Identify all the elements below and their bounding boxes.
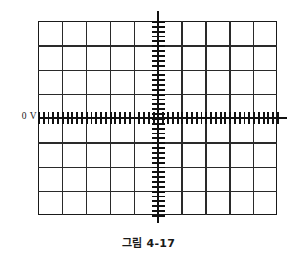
axis-tick <box>152 99 165 101</box>
axis-tick <box>152 31 165 33</box>
axis-tick <box>210 112 212 124</box>
axis-tick <box>152 210 165 212</box>
axis-tick <box>48 112 50 124</box>
axis-tick <box>248 112 250 124</box>
axis-tick <box>220 112 222 124</box>
vertical-axis-ticks <box>152 21 165 215</box>
figure-oscilloscope-graticule: 0 V 그림 4-17 <box>0 0 297 260</box>
axis-tick <box>201 112 203 124</box>
axis-tick <box>152 84 165 86</box>
axis-tick <box>43 112 45 124</box>
axis-tick <box>148 112 150 124</box>
axis-tick <box>152 147 165 149</box>
axis-tick <box>71 112 73 124</box>
axis-tick <box>167 112 169 124</box>
axis-tick <box>152 137 165 139</box>
axis-tick <box>152 50 165 52</box>
axis-tick <box>152 205 165 207</box>
axis-tick <box>191 112 193 124</box>
axis-tick <box>152 133 165 135</box>
axis-tick <box>152 191 165 193</box>
axis-tick <box>229 112 231 124</box>
axis-tick <box>119 112 121 124</box>
axis-tick <box>152 157 165 159</box>
zero-volt-label: 0 V <box>11 110 37 122</box>
axis-tick <box>143 112 145 124</box>
axis-tick <box>244 112 246 124</box>
axis-tick <box>100 112 102 124</box>
axis-tick <box>38 112 40 124</box>
axis-tick <box>152 123 165 125</box>
axis-tick <box>81 112 83 124</box>
axis-tick <box>152 162 165 164</box>
axis-tick <box>152 200 165 202</box>
axis-tick <box>152 196 165 198</box>
axis-tick <box>253 112 255 124</box>
axis-tick <box>272 112 274 124</box>
axis-tick <box>239 112 241 124</box>
axis-tick <box>152 55 165 57</box>
axis-tick <box>152 65 165 67</box>
axis-tick <box>152 171 165 173</box>
axis-tick <box>196 112 198 124</box>
axis-tick <box>110 112 112 124</box>
axis-tick <box>172 112 174 124</box>
axis-tick <box>152 128 165 130</box>
axis-tick <box>152 118 165 120</box>
axis-tick <box>152 70 165 72</box>
axis-tick <box>152 26 165 28</box>
axis-tick <box>134 112 136 124</box>
axis-tick <box>152 215 165 217</box>
axis-tick <box>152 36 165 38</box>
axis-tick <box>152 181 165 183</box>
axis-tick <box>86 112 88 124</box>
axis-tick <box>76 112 78 124</box>
axis-tick <box>258 112 260 124</box>
axis-tick <box>152 108 165 110</box>
axis-tick <box>67 112 69 124</box>
axis-tick <box>152 142 165 144</box>
axis-tick <box>95 112 97 124</box>
axis-tick <box>152 94 165 96</box>
axis-tick <box>152 167 165 169</box>
axis-tick <box>152 89 165 91</box>
axis-tick <box>105 112 107 124</box>
axis-tick <box>152 152 165 154</box>
axis-tick <box>114 112 116 124</box>
axis-tick <box>152 45 165 47</box>
axis-tick <box>152 21 165 23</box>
axis-tick <box>152 74 165 76</box>
axis-tick <box>267 112 269 124</box>
axis-tick <box>224 112 226 124</box>
axis-tick <box>205 112 207 124</box>
axis-tick <box>91 112 93 124</box>
figure-caption: 그림 4-17 <box>0 234 297 250</box>
axis-tick <box>152 176 165 178</box>
axis-tick <box>152 103 165 105</box>
axis-tick <box>177 112 179 124</box>
axis-tick <box>152 113 165 115</box>
axis-tick <box>52 112 54 124</box>
axis-tick <box>234 112 236 124</box>
axis-tick <box>263 112 265 124</box>
axis-tick <box>152 40 165 42</box>
axis-tick <box>152 79 165 81</box>
axis-tick <box>129 112 131 124</box>
axis-tick <box>186 112 188 124</box>
axis-tick <box>124 112 126 124</box>
axis-tick <box>152 186 165 188</box>
axis-tick <box>152 60 165 62</box>
axis-tick <box>138 112 140 124</box>
axis-tick <box>181 112 183 124</box>
axis-tick <box>57 112 59 124</box>
axis-tick <box>62 112 64 124</box>
axis-tick <box>277 112 279 124</box>
axis-tick <box>215 112 217 124</box>
